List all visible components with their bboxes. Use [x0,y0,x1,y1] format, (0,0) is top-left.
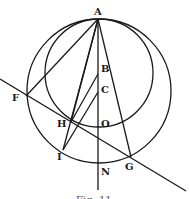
label-I: I [57,151,62,162]
label-C: C [101,84,109,95]
label-B: B [101,63,109,74]
small-circle [45,19,153,127]
label-H: H [57,118,66,129]
label-A: A [93,6,102,17]
geometric-diagram: A B C O N F H I G Fig. 11 [0,0,190,199]
figure-caption: Fig. 11 [76,194,112,199]
label-N: N [101,166,110,177]
label-F: F [12,92,19,103]
line-CI [63,92,98,150]
label-G: G [125,161,134,172]
label-O: O [101,118,110,129]
secant-line-FG [0,79,186,191]
